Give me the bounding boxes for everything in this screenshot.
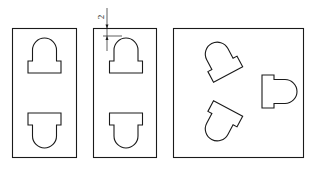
panel-3 [174,29,304,158]
keyhole-slot-top [28,38,61,73]
panel-1 [13,29,77,158]
keyhole-slot-lower-left [197,101,243,147]
plate-outline [174,29,304,158]
dimension-callout: 2 [96,8,122,51]
plate-outline [94,29,157,158]
arrow-up-icon [106,36,109,40]
keyhole-slot-top [110,38,143,73]
keyhole-slot-bottom [28,113,61,148]
diagram-canvas: 2 [0,0,315,171]
panel-2: 2 [94,8,157,158]
arrow-down-icon [106,25,109,29]
dimension-label: 2 [96,15,106,20]
plate-outline [13,29,77,158]
keyhole-slot-upper-left [197,36,243,82]
keyhole-slot-right [262,75,297,108]
keyhole-slot-bottom [110,113,143,148]
